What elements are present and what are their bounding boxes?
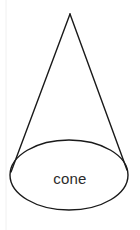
cone-left-slant-edge [11,14,70,172]
cone-right-slant-edge [70,14,127,170]
cone-figure-svg [0,0,140,230]
cone-diagram: cone [0,0,140,230]
cone-label: cone [0,171,140,186]
